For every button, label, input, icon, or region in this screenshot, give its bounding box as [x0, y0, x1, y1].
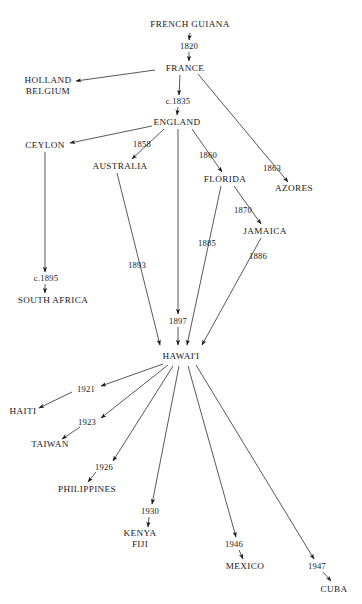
edge-year-hawaii-to-haiti: 1921 [77, 384, 95, 394]
edge-year-layer: 1820c.18351858186018631870c.189518931897… [0, 0, 362, 604]
edge-year-hawaii-to-philippines: 1926 [95, 462, 113, 472]
edge-year-england-to-hawaii: 1897 [169, 316, 187, 326]
edge-year-florida-to-hawaii: 1885 [198, 238, 216, 248]
edge-year-hawaii-to-cuba: 1947 [308, 561, 326, 571]
edge-year-england-to-florida: 1860 [199, 150, 217, 160]
edge-year-jamaica-to-hawaii: 1886 [249, 251, 267, 261]
edge-year-australia-to-hawaii: 1893 [128, 260, 146, 270]
edge-year-ceylon-to-south_africa: c.1895 [34, 273, 58, 283]
diffusion-diagram: FRENCH GUIANAFRANCEHOLLANDBELGIUMENGLAND… [0, 0, 362, 604]
edge-year-florida-to-jamaica: 1870 [234, 205, 252, 215]
edge-year-hawaii-to-taiwan: 1923 [78, 417, 96, 427]
edge-year-hawaii-to-kenya_fiji: 1930 [141, 506, 159, 516]
edge-year-france-to-england: c.1835 [166, 96, 190, 106]
edge-year-england-to-australia: 1858 [133, 139, 151, 149]
edge-year-french_guiana-to-france: 1820 [180, 41, 198, 51]
edge-year-france-to-azores: 1863 [263, 163, 281, 173]
edge-year-hawaii-to-mexico: 1946 [225, 539, 243, 549]
